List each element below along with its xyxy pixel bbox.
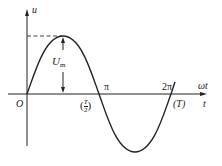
y-axis-arrow-icon <box>25 9 29 16</box>
half-period-close-paren: ) <box>88 99 92 111</box>
period-label: (T) <box>173 99 185 109</box>
x-axis-label-t: t <box>203 99 206 109</box>
amplitude-subscript: m <box>60 61 65 69</box>
x-axis-label-omega-t: ωt <box>198 81 208 91</box>
two-pi-label: 2π <box>162 82 172 92</box>
pi-label: π <box>104 82 109 92</box>
y-axis-label: u <box>32 5 37 15</box>
waveform-diagram <box>0 0 222 166</box>
amplitude-symbol: U <box>52 55 60 67</box>
amplitude-label: Um <box>52 56 65 69</box>
amplitude-arrow-down-icon <box>61 87 65 93</box>
half-period-label: (T2) <box>80 99 91 114</box>
origin-label: O <box>16 99 23 109</box>
amplitude-arrow-up-icon <box>61 37 65 43</box>
x-axis-arrow-icon <box>200 92 207 96</box>
